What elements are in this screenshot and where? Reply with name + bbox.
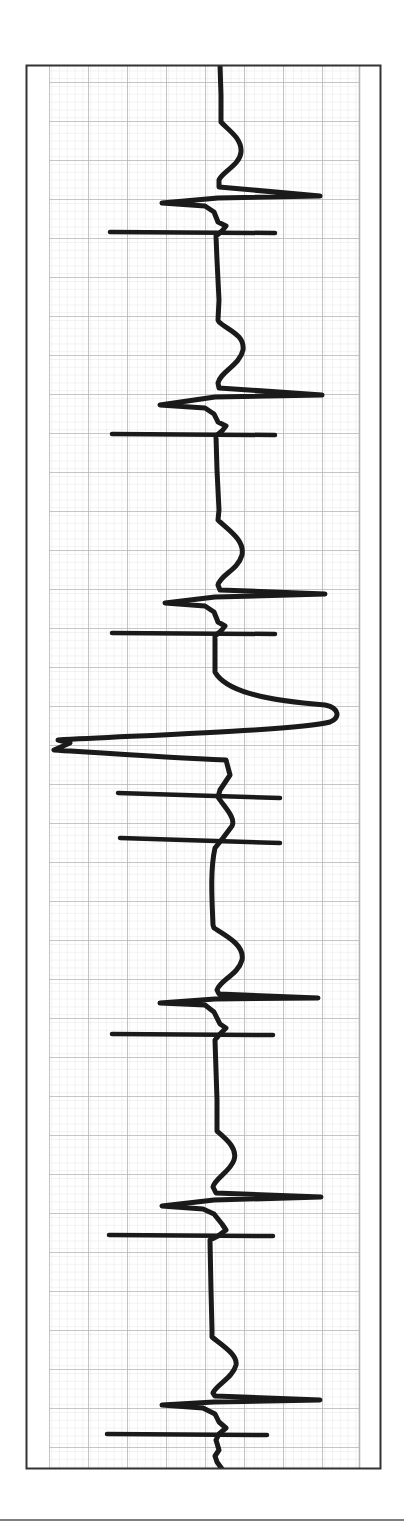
pacing-spike-line <box>107 1434 267 1435</box>
pacing-spike-line <box>112 434 275 435</box>
ecg-grid <box>49 65 360 1469</box>
pacing-spike-line <box>109 1235 273 1236</box>
pacing-spike-line <box>110 232 275 233</box>
pacing-spike-line <box>112 633 275 634</box>
ecg-chart <box>0 0 404 1530</box>
pacing-spike-line <box>112 1034 273 1035</box>
